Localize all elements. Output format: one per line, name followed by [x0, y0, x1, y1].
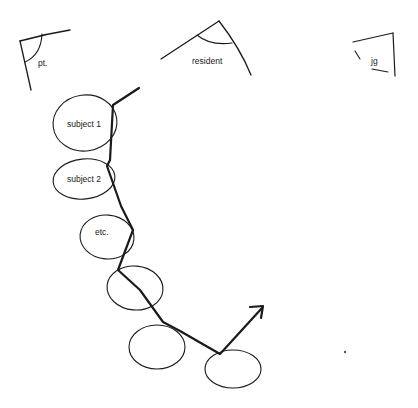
connecting-path	[107, 88, 263, 354]
node-shape	[129, 325, 185, 369]
jg-bracket-side	[393, 33, 395, 76]
node-shape	[105, 264, 165, 313]
role-jg: jg	[353, 33, 395, 76]
resident-bracket-right	[219, 21, 251, 75]
node-5	[129, 325, 185, 369]
role-resident: resident	[161, 21, 251, 75]
node-shape	[205, 350, 261, 388]
node-label-subject-1: subject 1	[67, 119, 101, 129]
node-subject-2: subject 2	[51, 156, 117, 202]
resident-angle-arc	[197, 35, 232, 44]
jg-bracket-top	[353, 33, 393, 42]
patient-bracket-side	[20, 41, 31, 90]
jg-tick-left	[355, 51, 360, 59]
node-4	[105, 264, 165, 313]
role-label-resident: resident	[192, 56, 223, 66]
resident-bracket-left	[161, 21, 219, 59]
node-6	[205, 350, 261, 388]
path-line	[107, 88, 262, 354]
node-label-subject-2: subject 2	[67, 174, 101, 184]
role-label-patient: pt.	[38, 58, 47, 68]
role-label-jg: jg	[370, 56, 378, 66]
patient-bracket-top	[20, 30, 70, 41]
stray-dot	[344, 351, 346, 353]
conversation-path-diagram: pt. resident jg subject 1 subject 2 etc.	[0, 0, 418, 408]
role-patient: pt.	[20, 30, 70, 90]
jg-tick-bottom	[372, 69, 388, 72]
node-label-etc: etc.	[95, 227, 109, 237]
